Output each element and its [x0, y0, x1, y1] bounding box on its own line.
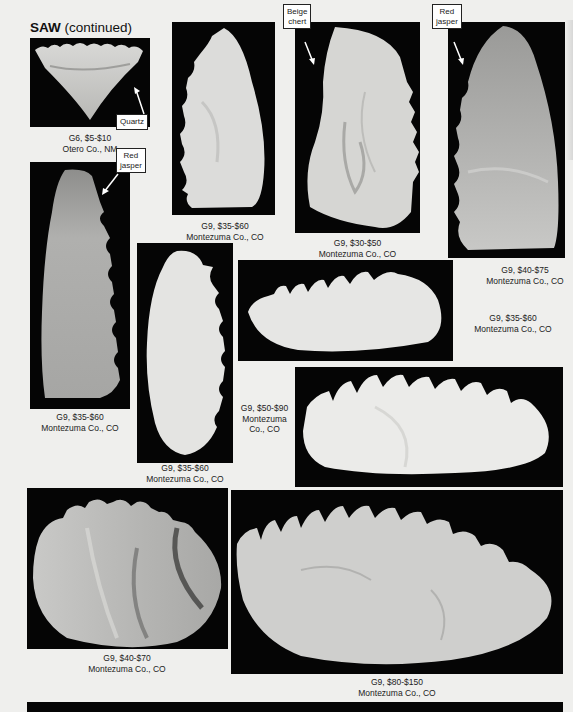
caption-specimen-10: G9, $80-$150 Montezuma Co., CO [337, 677, 457, 698]
caption-specimen-7: G9, $35-$60 Montezuma Co., CO [458, 313, 568, 334]
caption-specimen-5: G9, $35-$60 Montezuma Co., CO [20, 412, 140, 433]
caption-location: Montezuma Co., CO [458, 324, 568, 335]
caption-location-line1: Montezuma [237, 414, 292, 425]
material-callout-beige-chert: Beige chert [283, 4, 311, 29]
callout-text-line2: chert [287, 17, 307, 27]
page-title-bold: SAW [30, 20, 61, 35]
caption-specimen-2: G9, $35-$60 Montezuma Co., CO [165, 221, 285, 242]
specimen-photo-8 [295, 367, 563, 487]
specimen-photo-7 [238, 260, 453, 361]
artifact-image [137, 243, 233, 463]
material-callout-red-jasper-left: Red jasper [116, 148, 146, 173]
caption-grade-price: G9, $35-$60 [458, 313, 568, 324]
artifact-image [172, 22, 275, 215]
bottom-rule-bar [27, 702, 563, 712]
specimen-photo-10 [231, 490, 563, 674]
artifact-image [30, 162, 130, 409]
caption-location: Montezuma Co., CO [125, 474, 245, 485]
caption-grade-price: G9, $35-$60 [20, 412, 140, 423]
caption-location: Montezuma Co., CO [20, 423, 140, 434]
specimen-photo-2 [172, 22, 275, 215]
specimen-photo-6 [137, 243, 233, 463]
caption-grade-price: G6, $5-$10 [30, 133, 150, 144]
material-callout-quartz: Quartz [116, 114, 148, 130]
caption-grade-price: G9, $50-$90 [237, 403, 292, 414]
callout-text: Quartz [120, 117, 144, 126]
caption-grade-price: G9, $30-$50 [295, 238, 420, 249]
artifact-image [27, 488, 228, 649]
caption-specimen-8: G9, $50-$90 Montezuma Co., CO [237, 403, 292, 435]
caption-grade-price: G9, $40-$70 [67, 653, 187, 664]
caption-grade-price: G9, $80-$150 [337, 677, 457, 688]
callout-arrow-icon [452, 40, 466, 66]
specimen-photo-9 [27, 488, 228, 649]
caption-specimen-9: G9, $40-$70 Montezuma Co., CO [67, 653, 187, 674]
caption-location-line2: Co., CO [237, 424, 292, 435]
callout-arrow-icon [100, 172, 120, 196]
page-title-rest: (continued) [61, 20, 132, 35]
caption-location: Montezuma Co., CO [295, 249, 420, 260]
callout-text-line1: Red [436, 7, 458, 17]
caption-grade-price: G9, $35-$60 [125, 463, 245, 474]
callout-arrow-icon [132, 86, 148, 116]
artifact-image [295, 367, 563, 487]
caption-location: Montezuma Co., CO [67, 664, 187, 675]
material-callout-red-jasper-right: Red jasper [432, 4, 462, 29]
caption-location: Montezuma Co., CO [337, 688, 457, 699]
caption-specimen-3: G9, $30-$50 Montezuma Co., CO [295, 238, 420, 259]
callout-text-line2: jasper [120, 161, 142, 171]
artifact-image [238, 260, 453, 361]
caption-specimen-6: G9, $35-$60 Montezuma Co., CO [125, 463, 245, 484]
caption-specimen-4: G9, $40-$75 Montezuma Co., CO [470, 265, 573, 286]
page-title: SAW (continued) [30, 20, 132, 35]
caption-grade-price: G9, $35-$60 [165, 221, 285, 232]
callout-text-line2: jasper [436, 17, 458, 27]
callout-text-line1: Red [120, 151, 142, 161]
caption-grade-price: G9, $40-$75 [470, 265, 573, 276]
artifact-image [231, 490, 563, 674]
caption-location: Montezuma Co., CO [470, 276, 573, 287]
page-edge-shadow [565, 20, 573, 160]
callout-text-line1: Beige [287, 7, 307, 17]
callout-arrow-icon [303, 40, 317, 66]
specimen-photo-red-jasper-left [30, 162, 130, 409]
caption-location: Montezuma Co., CO [165, 232, 285, 243]
